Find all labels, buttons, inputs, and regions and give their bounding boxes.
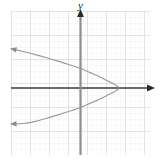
parabola-figure: y [0, 0, 160, 164]
y-axis-label: y [77, 0, 83, 11]
graph-canvas: y [0, 0, 160, 164]
